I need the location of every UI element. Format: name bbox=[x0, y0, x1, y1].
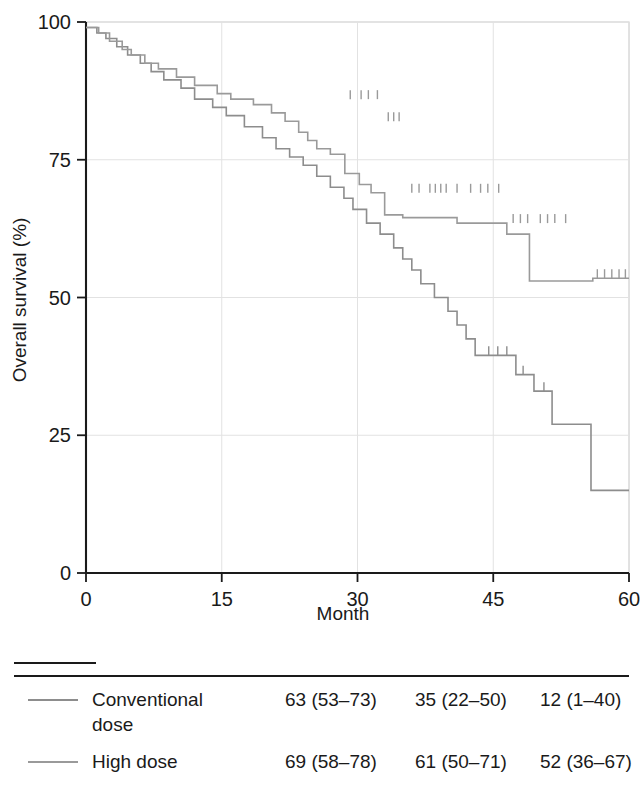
x-axis-title: Month bbox=[317, 603, 370, 624]
key-rows: Conventionaldose63 (53–73)35 (22–50)12 (… bbox=[28, 689, 632, 772]
y-tick-label: 75 bbox=[49, 149, 71, 171]
x-tick-label: 45 bbox=[482, 588, 504, 610]
key-series-label: Conventional bbox=[92, 689, 203, 710]
key-stat-value: 35 (22–50) bbox=[415, 689, 507, 710]
key-stat-value: 61 (50–71) bbox=[415, 751, 507, 772]
y-tick-label: 0 bbox=[60, 562, 71, 584]
axis-ticks bbox=[77, 22, 629, 582]
survival-chart-figure: 0255075100015304560 Overall survival (%)… bbox=[0, 0, 643, 800]
censor-marks bbox=[350, 90, 625, 391]
x-tick-label: 60 bbox=[618, 588, 640, 610]
key-series-label: High dose bbox=[92, 751, 178, 772]
gridlines bbox=[86, 22, 629, 573]
y-tick-label: 50 bbox=[49, 287, 71, 309]
key-stat-value: 52 (36–67) bbox=[540, 751, 632, 772]
axis-tick-labels: 0255075100015304560 bbox=[38, 11, 641, 610]
key-stat-value: 63 (53–73) bbox=[285, 689, 377, 710]
key-series-label-line2: dose bbox=[92, 714, 133, 735]
x-tick-label: 0 bbox=[80, 588, 91, 610]
y-tick-label: 25 bbox=[49, 424, 71, 446]
y-axis-title: Overall survival (%) bbox=[9, 218, 30, 383]
y-tick-label: 100 bbox=[38, 11, 71, 33]
key-stat-value: 12 (1–40) bbox=[540, 689, 621, 710]
x-tick-label: 15 bbox=[211, 588, 233, 610]
survival-chart-svg: 0255075100015304560 Overall survival (%)… bbox=[0, 0, 643, 800]
key-stat-value: 69 (58–78) bbox=[285, 751, 377, 772]
